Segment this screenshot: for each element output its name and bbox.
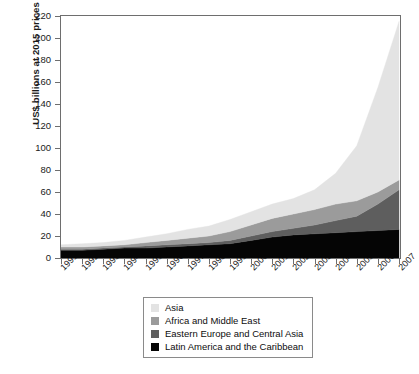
y-tick-mark xyxy=(55,170,60,171)
y-tick-mark xyxy=(55,82,60,83)
y-tick-label: 0 xyxy=(0,253,51,263)
y-tick-mark xyxy=(55,60,60,61)
y-tick-label: 100 xyxy=(0,143,51,153)
stacked-area-series xyxy=(61,16,400,258)
y-tick-label: 220 xyxy=(0,11,51,21)
y-tick-label: 160 xyxy=(0,77,51,87)
y-tick-mark xyxy=(55,104,60,105)
chart-figure: US$ billions at 2015 prices 020406080100… xyxy=(0,0,419,374)
plot-border-right xyxy=(400,15,401,258)
y-tick-label: 80 xyxy=(0,165,51,175)
y-tick-mark xyxy=(55,192,60,193)
plot-area xyxy=(61,16,400,258)
y-tick-mark xyxy=(55,214,60,215)
legend-item: Africa and Middle East xyxy=(151,314,303,327)
y-tick-mark xyxy=(55,148,60,149)
y-tick-label: 120 xyxy=(0,121,51,131)
legend-label: Africa and Middle East xyxy=(165,316,260,326)
legend-swatch-icon xyxy=(151,317,159,325)
y-tick-label: 200 xyxy=(0,33,51,43)
legend-label: Asia xyxy=(165,303,183,313)
y-tick-label: 20 xyxy=(0,231,51,241)
y-tick-label: 60 xyxy=(0,187,51,197)
legend-item: Latin America and the Caribbean xyxy=(151,340,303,353)
legend-item: Asia xyxy=(151,301,303,314)
chart-legend: AsiaAfrica and Middle EastEastern Europe… xyxy=(143,297,313,358)
y-tick-mark xyxy=(55,38,60,39)
y-tick-mark xyxy=(55,258,60,259)
legend-label: Eastern Europe and Central Asia xyxy=(165,329,303,339)
legend-swatch-icon xyxy=(151,343,159,351)
y-tick-label: 140 xyxy=(0,99,51,109)
legend-swatch-icon xyxy=(151,330,159,338)
y-tick-label: 180 xyxy=(0,55,51,65)
y-tick-mark xyxy=(55,16,60,17)
y-tick-mark xyxy=(55,126,60,127)
y-tick-mark xyxy=(55,236,60,237)
y-tick-label: 40 xyxy=(0,209,51,219)
legend-label: Latin America and the Caribbean xyxy=(165,342,303,352)
legend-item: Eastern Europe and Central Asia xyxy=(151,327,303,340)
legend-swatch-icon xyxy=(151,304,159,312)
